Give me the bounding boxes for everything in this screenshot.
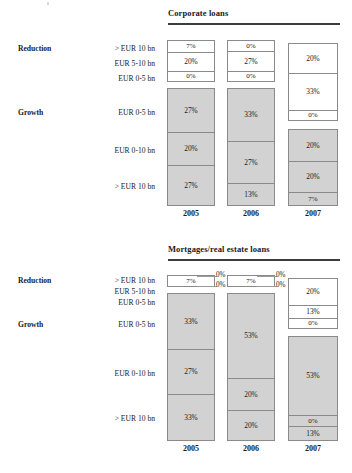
stack-growth-2007[interactable]: 53% 0% 13%: [288, 336, 338, 441]
segment-growth-gt10-2006: 20%: [228, 410, 274, 440]
plot-area: 7% 20% 0% 27% 20% 27% 20: [0, 0, 352, 236]
leader-line-reduction-5to10-2006: [257, 276, 277, 277]
stack-growth-2007[interactable]: 20% 20% 7%: [288, 129, 338, 206]
leader-line-reduction-0to5-2005: [197, 286, 217, 287]
stack-growth-2005[interactable]: 33% 27% 33%: [167, 293, 215, 441]
stack-reduction-2006[interactable]: 0% 27% 0%: [227, 40, 275, 82]
segment-growth-gt10-2007: 13%: [289, 426, 337, 440]
segment-reduction-gt10-2006: 0%: [228, 41, 274, 51]
stack-growth-2006[interactable]: 33% 27% 13%: [227, 88, 275, 206]
chart-mortgages-real-estate-loans: Mortgages/real estate loans Reduction Gr…: [0, 236, 352, 473]
stack-growth-2006[interactable]: 53% 20% 20%: [227, 293, 275, 441]
segment-reduction-5to10-2006: 0%: [276, 271, 286, 279]
segment-reduction-0to5-2007: 0%: [289, 110, 337, 120]
year-label-2005: 2005: [167, 209, 215, 218]
segment-reduction-gt10-2005: 7%: [168, 41, 214, 52]
leader-line-reduction-0to5-2006: [257, 286, 277, 287]
chart-corporate-loans: Corporate loans Reduction Growth > EUR 1…: [0, 0, 352, 236]
segment-reduction-gt10-2007: 20%: [289, 44, 337, 73]
year-label-2007: 2007: [288, 444, 338, 453]
segment-growth-0to5-2006: 33%: [228, 89, 274, 141]
segment-reduction-0to5-2006: 0%: [228, 71, 274, 81]
segment-growth-0to5-2007: 20%: [289, 130, 337, 161]
segment-growth-gt10-2006: 13%: [228, 183, 274, 205]
segment-reduction-5to10-2006: 27%: [228, 51, 274, 71]
leader-line-reduction-5to10-2005: [197, 276, 217, 277]
segment-reduction-gt10-2007: 20%: [289, 279, 337, 305]
segment-reduction-gt10-2005: 7%: [168, 276, 214, 286]
segment-growth-0to5-2007: 53%: [289, 337, 337, 415]
segment-reduction-5to10-2007: 13%: [289, 305, 337, 318]
plot-area: 7% 0% 0% 33% 27% 33% 2005: [0, 236, 352, 473]
segment-growth-0to10-2007: 0%: [289, 415, 337, 426]
segment-growth-0to10-2007: 20%: [289, 161, 337, 192]
segment-reduction-0to5-2007: 0%: [289, 318, 337, 328]
segment-growth-gt10-2007: 7%: [289, 192, 337, 205]
segment-reduction-5to10-2007: 33%: [289, 73, 337, 110]
segment-growth-0to10-2006: 27%: [228, 141, 274, 183]
year-label-2005: 2005: [167, 444, 215, 453]
segment-growth-gt10-2005: 27%: [168, 165, 214, 205]
segment-growth-0to10-2006: 20%: [228, 378, 274, 410]
stack-reduction-2005[interactable]: 7% 20% 0%: [167, 40, 215, 82]
segment-growth-0to10-2005: 27%: [168, 349, 214, 394]
segment-reduction-5to10-2005: 20%: [168, 52, 214, 71]
segment-reduction-gt10-2006: 7%: [228, 276, 274, 286]
year-label-2007: 2007: [288, 209, 338, 218]
segment-growth-0to5-2006: 53%: [228, 294, 274, 378]
segment-reduction-0to5-2005: 0%: [216, 281, 226, 289]
year-label-2006: 2006: [227, 209, 275, 218]
segment-growth-gt10-2005: 33%: [168, 394, 214, 440]
segment-growth-0to5-2005: 27%: [168, 89, 214, 132]
segment-reduction-0to5-2006: 0%: [276, 281, 286, 289]
stack-reduction-2007[interactable]: 20% 13% 0%: [288, 278, 338, 329]
stack-reduction-2007[interactable]: 20% 33% 0%: [288, 43, 338, 121]
segment-reduction-0to5-2005: 0%: [168, 71, 214, 81]
segment-growth-0to10-2005: 20%: [168, 132, 214, 165]
stack-growth-2005[interactable]: 27% 20% 27%: [167, 88, 215, 206]
segment-growth-0to5-2005: 33%: [168, 294, 214, 349]
segment-reduction-5to10-2005: 0%: [216, 271, 226, 279]
year-label-2006: 2006: [227, 444, 275, 453]
